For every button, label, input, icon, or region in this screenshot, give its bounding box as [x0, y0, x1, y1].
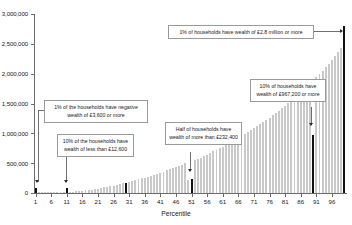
bar	[337, 52, 339, 193]
bar	[138, 179, 140, 193]
y-axis-line	[34, 14, 35, 194]
bar	[109, 186, 111, 193]
callout-top-1pct: 1% of households have wealth of £2.8 mil…	[168, 25, 314, 39]
bar	[340, 48, 342, 193]
x-tick-mark	[207, 194, 208, 197]
x-tick-mark	[285, 194, 286, 197]
bar	[169, 169, 171, 193]
bar	[113, 186, 115, 193]
bar	[128, 182, 130, 193]
bar	[153, 175, 155, 193]
bar	[166, 170, 168, 193]
bar-highlighted	[125, 183, 127, 193]
bar	[216, 150, 218, 193]
bar	[231, 141, 233, 193]
bar	[206, 155, 208, 193]
bar	[287, 103, 289, 193]
bar	[244, 134, 246, 193]
bar-highlighted	[343, 26, 345, 193]
bar	[272, 115, 274, 193]
x-tick-mark	[316, 194, 317, 197]
callout-negative-1pct: 1% of the households have negative wealt…	[44, 100, 148, 123]
bar	[303, 89, 305, 193]
y-tick-label: 2,500,000	[0, 40, 28, 47]
x-tick-mark	[82, 194, 83, 197]
bar	[209, 153, 211, 193]
bar	[278, 111, 280, 193]
bar	[197, 159, 199, 193]
x-tick-mark	[332, 194, 333, 197]
bar	[281, 108, 283, 193]
bar	[156, 174, 158, 193]
x-tick-mark	[36, 194, 37, 197]
x-tick-mark	[301, 194, 302, 197]
arrowhead-top-10pct	[309, 123, 313, 126]
x-tick-mark	[51, 194, 52, 197]
leader-top-1pct	[314, 31, 342, 32]
arrowhead-negative-1pct	[35, 180, 39, 183]
bar	[159, 173, 161, 193]
bar	[297, 95, 299, 193]
leader-negative-1pct-v	[38, 110, 39, 182]
bar	[200, 158, 202, 193]
callout-top-10pct: 10% of households have wealth of £967,20…	[250, 79, 326, 102]
bar	[265, 120, 267, 193]
bar	[144, 178, 146, 193]
bar	[334, 56, 336, 193]
x-tick-mark	[238, 194, 239, 197]
bar	[225, 145, 227, 193]
bar	[290, 101, 292, 193]
bar	[219, 148, 221, 193]
bar	[187, 180, 189, 193]
bar	[175, 167, 177, 193]
y-tick-label: 1,000,000	[0, 130, 28, 137]
bar	[131, 181, 133, 193]
x-tick-mark	[98, 194, 99, 197]
arrowhead-bottom-10pct	[64, 180, 68, 183]
x-tick-mark	[129, 194, 130, 197]
bar	[116, 185, 118, 193]
bar	[184, 163, 186, 193]
x-tick-mark	[67, 194, 68, 197]
bar	[181, 165, 183, 193]
y-tick-label: 0	[0, 189, 28, 196]
bar-highlighted	[191, 179, 193, 193]
bar	[122, 183, 124, 193]
bar	[284, 106, 286, 193]
bar	[134, 180, 136, 193]
bar	[222, 147, 224, 193]
wealth-distribution-chart: 0500,0001,000,0001,500,0002,000,0002,500…	[0, 0, 352, 225]
y-tick-label: 3,000,000	[0, 10, 28, 17]
bar	[119, 184, 121, 193]
bar	[269, 118, 271, 193]
callout-median: Half of households have wealth of more t…	[165, 122, 242, 145]
bar	[172, 168, 174, 193]
y-tick-label: 1,500,000	[0, 100, 28, 107]
x-tick-mark	[114, 194, 115, 197]
x-tick-mark	[254, 194, 255, 197]
x-tick-mark	[192, 194, 193, 197]
x-tick-mark	[270, 194, 271, 197]
bar	[262, 122, 264, 193]
bar	[141, 178, 143, 193]
bar	[253, 128, 255, 193]
y-tick-label: 500,000	[0, 160, 28, 167]
bar	[178, 166, 180, 193]
y-tick-label: 2,000,000	[0, 70, 28, 77]
bar	[259, 124, 261, 193]
bar-highlighted	[312, 135, 314, 193]
bar	[203, 156, 205, 193]
bar	[294, 98, 296, 193]
bar	[147, 177, 149, 193]
x-tick-mark	[223, 194, 224, 197]
bar	[212, 151, 214, 193]
callout-bottom-10pct: 10% of the households have wealth of les…	[57, 134, 134, 157]
bar	[150, 176, 152, 193]
x-axis-title: Percentile	[0, 210, 352, 217]
bar	[247, 132, 249, 193]
x-tick-mark	[145, 194, 146, 197]
bar	[234, 140, 236, 193]
bar	[300, 92, 302, 193]
bar	[331, 60, 333, 193]
bar	[328, 64, 330, 193]
